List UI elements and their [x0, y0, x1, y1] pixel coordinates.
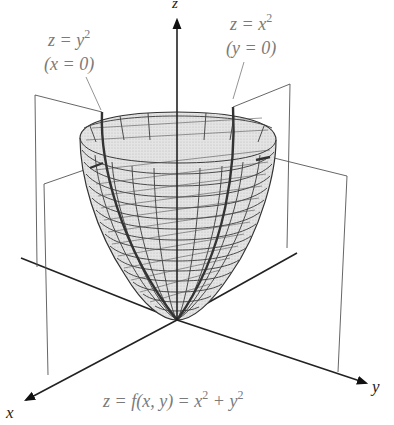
- annotation-x0: z = y2 (x = 0): [44, 27, 94, 75]
- annotation-x0-sup: 2: [84, 27, 90, 41]
- equation-prefix: z = f(x, y) = x: [102, 391, 202, 412]
- svg-text:z = y2: z = y2: [47, 27, 90, 50]
- annotation-x0-condition: (x = 0): [44, 54, 94, 75]
- x-axis: [26, 320, 177, 400]
- leader-line-y0: [233, 62, 244, 99]
- annotation-y0-condition: (y = 0): [226, 38, 276, 59]
- leader-line-x0: [86, 77, 101, 110]
- annotation-x0-eq: z = y: [47, 30, 84, 50]
- paraboloid-figure: z x y z = y2 (x = 0) z = x2 (y = 0) z = …: [0, 0, 394, 425]
- yz-plane-frame-right: [270, 157, 347, 372]
- annotation-y0-eq: z = x: [229, 14, 266, 34]
- y-axis-label: y: [370, 377, 380, 396]
- surface-equation: z = f(x, y) = x2 + y2: [102, 388, 243, 412]
- z-axis-label: z: [171, 0, 178, 11]
- annotation-y0: z = x2 (y = 0): [226, 11, 276, 59]
- equation-mid: + y: [208, 391, 237, 411]
- equation-sup2: 2: [237, 388, 243, 402]
- x-axis-label: x: [5, 403, 14, 422]
- paraboloid-surface: [80, 107, 276, 320]
- yz-plane-frame-left: [44, 168, 90, 375]
- svg-text:z = x2: z = x2: [229, 11, 272, 34]
- annotation-y0-sup: 2: [266, 11, 272, 25]
- y-axis: [177, 320, 366, 383]
